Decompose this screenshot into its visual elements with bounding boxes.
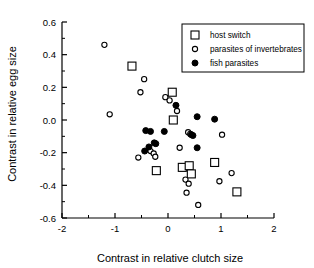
data-point (233, 188, 241, 196)
data-point (217, 179, 222, 184)
chart-legend: host switchparasites of invertebratesfis… (182, 24, 304, 72)
data-point (219, 132, 224, 137)
data-point (169, 116, 177, 124)
y-tick-label: -0.2 (40, 147, 56, 158)
data-point (194, 145, 200, 151)
y-tick-label: 0.2 (43, 82, 56, 93)
data-point (211, 158, 219, 166)
x-tick-label: -2 (58, 223, 66, 234)
x-tick-label: 0 (165, 223, 170, 234)
y-tick-label: -0.6 (40, 213, 56, 224)
data-point (102, 42, 107, 47)
data-point (161, 128, 167, 134)
data-point (153, 154, 158, 159)
legend-label: parasites of invertebrates (210, 45, 302, 54)
x-tick-label: 2 (271, 223, 276, 234)
data-point (212, 116, 218, 122)
y-tick-label: 0.4 (43, 49, 56, 60)
data-point (186, 181, 191, 186)
data-point (168, 88, 176, 96)
y-tick-label: 0.6 (43, 17, 56, 28)
data-point (194, 114, 200, 120)
y-tick-label: -0.4 (40, 180, 56, 191)
legend-label: fish parasites (210, 59, 258, 68)
data-point (190, 133, 196, 139)
scatter-plot-figure: -2-1012-0.6-0.4-0.20.00.20.40.6 host swi… (0, 0, 314, 268)
data-point (138, 90, 143, 95)
data-point (148, 128, 154, 134)
data-point (142, 77, 147, 82)
data-point (187, 170, 195, 178)
data-point (128, 62, 136, 70)
data-point (153, 141, 159, 147)
x-tick-label: -1 (111, 223, 119, 234)
data-point (173, 102, 179, 108)
legend-marker (192, 46, 197, 51)
plot-canvas: -2-1012-0.6-0.4-0.20.00.20.40.6 host swi… (0, 0, 314, 268)
legend-label: host switch (210, 31, 251, 40)
data-point (196, 202, 201, 207)
data-point (184, 190, 189, 195)
x-tick-label: 1 (218, 223, 223, 234)
y-tick-label: 0.0 (43, 115, 56, 126)
x-axis-title: Contrast in relative clutch size (97, 252, 243, 264)
data-point (107, 112, 112, 117)
data-point (152, 167, 160, 175)
data-point (229, 170, 234, 175)
data-point (177, 145, 182, 150)
data-point (185, 162, 193, 170)
data-point (146, 144, 152, 150)
legend-marker (192, 60, 198, 66)
y-axis-title: Contrast in relative egg size (6, 46, 18, 182)
data-point (167, 98, 172, 103)
data-point (174, 108, 179, 113)
legend-marker (191, 31, 199, 39)
data-point (136, 155, 141, 160)
